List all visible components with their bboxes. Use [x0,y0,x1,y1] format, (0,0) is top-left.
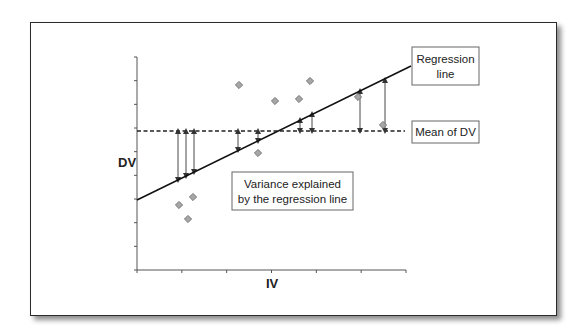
data-point-diamond [295,95,302,102]
mean-callout-text: Mean of DV [415,126,476,138]
regression-diagram: DV IV Regression line Mean of DV Varianc… [0,0,586,336]
regression-line-callout: Regression line [412,47,479,85]
data-point-diamond [379,121,386,128]
variance-explained-callout: Variance explained by the regression lin… [232,172,353,210]
mean-of-dv-callout: Mean of DV [412,121,479,143]
regression-callout-line1: Regression [416,53,474,65]
data-point-diamond [235,81,242,88]
axes [134,57,406,273]
regression-callout-line2: line [437,68,455,80]
data-point-diamond [271,97,278,104]
data-point-diamond [306,77,313,84]
variance-callout-line1: Variance explained [244,178,341,190]
data-point-diamond [189,193,196,200]
figure: DV IV Regression line Mean of DV Varianc… [0,0,586,336]
data-point-diamond [175,201,182,208]
data-point-diamond [184,215,191,222]
variance-callout-line2: by the regression line [238,193,347,205]
data-point-diamond [354,93,361,100]
y-axis-label: DV [118,155,136,170]
data-point-diamond [254,149,261,156]
x-axis-label: IV [266,276,279,291]
